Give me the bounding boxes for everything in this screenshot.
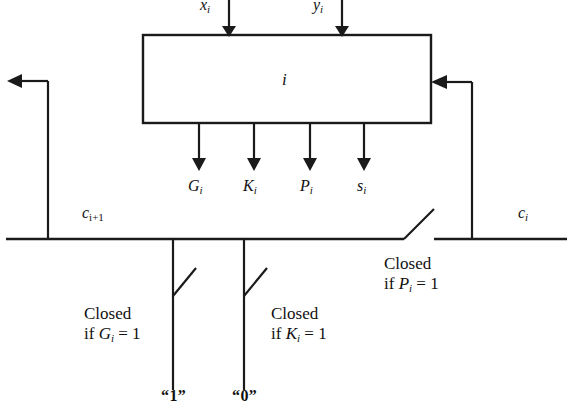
carry-stage-diagram: i xi yi Gi Ki Pi si ci+1 ci Closed if Pi… [0,0,573,407]
stage-block-label: i [282,70,287,90]
carry-out-arrowhead [7,74,22,88]
G-output-sub: i [200,184,203,196]
carry-in-arrowhead [431,75,447,89]
s-output-wire [357,124,371,171]
rail-zero-label: “0” [232,387,257,406]
G-output-arrowhead [192,158,206,171]
p-switch-var: P [399,274,409,293]
p-switch-eq: = 1 [416,274,438,293]
P-output-label: Pi [300,177,313,197]
g-switch-var: G [99,324,111,343]
P-output-base: P [300,177,310,194]
carry-out-label: ci+1 [82,204,104,224]
carry-in-wire [431,75,472,239]
k-switch-line1: Closed [271,304,318,323]
g-switch-condition: Closed if Gi = 1 [84,304,141,345]
K-output-base: K [243,177,254,194]
s-output-sub: i [363,184,366,196]
rail-one-label: “1” [161,387,186,406]
P-output-arrowhead [303,158,317,171]
k-switch-if: if [271,324,281,343]
G-output-wire [192,124,206,171]
g-switch-eq: = 1 [118,324,140,343]
g-switch-if: if [84,324,94,343]
k-switch-sub: i [297,332,300,344]
y-input-sub: i [320,3,323,15]
stage-block [143,35,431,123]
K-output-label: Ki [243,177,257,197]
k-switch-eq: = 1 [304,324,326,343]
carry-in-label: ci [518,204,528,224]
k-switch-blade [244,268,267,296]
K-output-sub: i [254,184,257,196]
k-switch-wire [244,239,267,390]
g-switch-wire [173,239,196,390]
p-switch-condition: Closed if Pi = 1 [384,254,439,295]
G-output-base: G [188,177,200,194]
k-switch-condition: Closed if Ki = 1 [271,304,327,345]
K-output-wire [247,124,261,171]
s-output-label: si [357,177,366,197]
P-output-wire [303,124,317,171]
carry-in-sub: i [525,211,528,223]
K-output-arrowhead [247,158,261,171]
p-switch-if: if [384,274,394,293]
s-output-arrowhead [357,158,371,171]
g-switch-line1: Closed [84,304,131,323]
p-switch-line2: if Pi = 1 [384,274,439,295]
G-output-label: Gi [188,177,203,197]
p-switch-blade [404,209,434,239]
y-input-label: yi [313,0,323,16]
k-switch-line2: if Ki = 1 [271,324,327,345]
carry-out-wire [7,74,48,239]
g-switch-blade [173,268,196,296]
g-switch-line2: if Gi = 1 [84,324,141,345]
x-input-sub: i [207,3,210,15]
carry-out-sub: i+1 [89,211,104,223]
y-input-wire [335,0,349,37]
k-switch-var: K [286,324,297,343]
x-input-label: xi [200,0,210,16]
g-switch-sub: i [111,332,114,344]
P-output-sub: i [310,184,313,196]
p-switch-line1: Closed [384,254,431,273]
p-switch-sub: i [409,282,412,294]
x-input-wire [222,0,236,37]
